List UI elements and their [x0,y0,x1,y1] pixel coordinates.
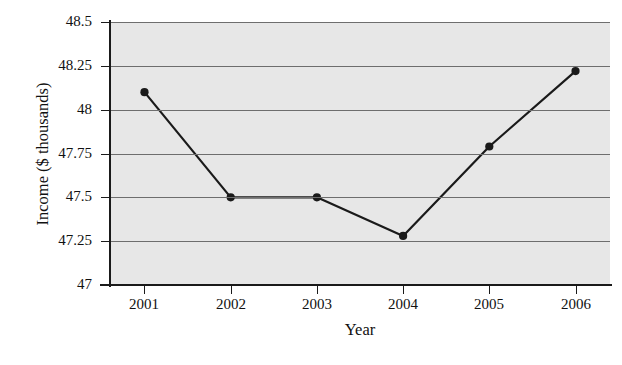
x-axis-line [100,284,612,286]
y-axis-tick-label: 47 [30,277,92,292]
gridline-y [110,241,610,242]
y-axis-tick-label: 48.25 [30,58,92,73]
y-axis-tick [101,22,110,23]
x-axis-tick [144,286,145,294]
data-point-marker [485,142,493,150]
gridline-y [110,66,610,67]
gridline-y [110,22,610,23]
gridline-y [110,197,610,198]
y-axis-tick [101,285,110,286]
x-axis-tick [231,286,232,294]
x-axis-tick-label: 2004 [368,296,438,312]
y-axis-tick-label: 48.5 [30,14,92,29]
y-axis-tick-label: 48 [30,102,92,117]
x-axis-tick-label: 2005 [454,296,524,312]
x-axis-tick [403,286,404,294]
gridline-y [110,110,610,111]
x-axis-tick-label: 2003 [282,296,352,312]
plot-area [110,22,610,285]
gridline-y [110,154,610,155]
x-axis-tick-label: 2002 [196,296,266,312]
y-axis-tick-label: 47.25 [30,233,92,248]
data-point-marker [571,67,579,75]
data-point-marker [399,232,407,240]
y-axis-tick [101,110,110,111]
income-line-chart: Income ($ thousands) Year 4747.2547.547.… [0,0,622,365]
x-axis-tick [489,286,490,294]
y-axis-tick [101,197,110,198]
x-axis-tick [317,286,318,294]
x-axis-title: Year [110,320,610,340]
x-axis-tick-label: 2001 [109,296,179,312]
x-axis-tick [576,286,577,294]
y-axis-tick-label: 47.5 [30,189,92,204]
data-point-marker [140,88,148,96]
y-axis-tick [101,154,110,155]
y-axis-tick [101,66,110,67]
chart-title [0,0,622,5]
x-axis-tick-label: 2006 [541,296,611,312]
y-axis-tick [101,241,110,242]
y-axis-tick-label: 47.75 [30,146,92,161]
